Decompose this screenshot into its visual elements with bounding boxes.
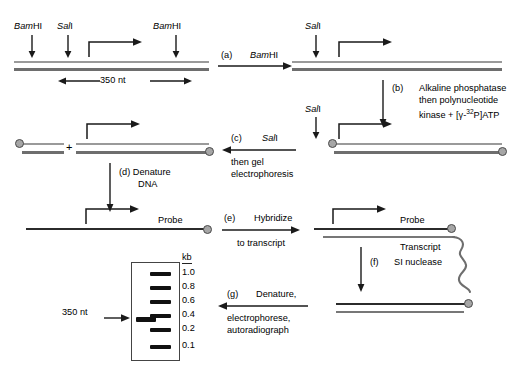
p32-label-circle-trimmed — [464, 299, 473, 308]
gel-marker-band — [150, 345, 171, 349]
restriction-site-label-bamhi-left: BamHI — [14, 21, 42, 32]
step-a-tag: (a) — [221, 50, 232, 62]
gel-marker-label: 0.6 — [182, 295, 195, 305]
figure-canvas: BamHI SalI BamHI 350 nt (a) BamHI SalI — [0, 0, 518, 375]
step-g-line2: electrophorese, — [227, 313, 290, 325]
gel-marker-band — [150, 272, 171, 276]
p32-label-circle-row2-right — [498, 147, 507, 156]
transcript-strand-row5 — [323, 236, 455, 238]
step-b-line2: then polynucleotide — [419, 95, 498, 107]
probe-label-row4: Probe — [158, 215, 183, 226]
transcription-start-arrow-row2 — [336, 119, 398, 141]
cut-site-arrow-sali-row2 — [308, 117, 324, 140]
gel-marker-band — [150, 286, 171, 290]
transcription-start-arrow-hybrid — [330, 204, 392, 226]
dna-strand-top-largefragment — [76, 143, 209, 145]
step-f-tag: (f) — [370, 257, 379, 269]
step-d-label: (d) Denature — [119, 167, 171, 179]
restriction-site-label-bamhi-right: BamHI — [153, 21, 181, 32]
step-f-arrow — [356, 247, 366, 293]
transcription-start-arrow-row1 — [86, 37, 148, 59]
trimmed-probe-strand — [336, 303, 468, 305]
probe-strand-row4 — [26, 228, 206, 230]
dna-strand-bottom-row1right — [292, 68, 502, 71]
restriction-site-label-sali-row2: SalI — [305, 104, 321, 115]
step-g-tag: (g) — [227, 289, 238, 301]
dna-strand-top-smallfragment — [22, 143, 64, 145]
dna-strand-bottom-row1 — [14, 68, 209, 71]
probe-label-row5: Probe — [400, 215, 425, 226]
gel-kb-header: kb — [182, 252, 192, 264]
gel-marker-band — [150, 328, 171, 332]
step-g-line1: Denature, — [256, 289, 296, 301]
cut-site-arrow-bamhi-right — [168, 35, 184, 59]
cut-site-arrow-bamhi-left — [24, 35, 40, 59]
dna-strand-bottom-smallfragment — [22, 151, 64, 154]
step-e-tag: (e) — [224, 213, 235, 225]
transcript-squiggle-tail — [452, 230, 498, 296]
step-f-line1: SI nuclease — [394, 257, 442, 269]
step-b-line3: kinase + [γ-32P]ATP — [419, 106, 499, 122]
cut-site-arrow-sali-top — [60, 35, 76, 59]
dna-strand-bottom-row2 — [334, 151, 502, 154]
restriction-site-label-sali-top: SalI — [57, 21, 73, 32]
gel-sample-band — [136, 317, 156, 322]
plus-sign: + — [66, 142, 72, 153]
gel-marker-label: 0.4 — [182, 309, 195, 319]
p32-label-circle-probe-row4 — [203, 225, 212, 234]
dna-strand-bottom-largefragment — [76, 151, 209, 154]
step-e-line1: Hybridize — [254, 213, 292, 225]
probe-strand-row5 — [314, 228, 450, 230]
gel-marker-label: 0.1 — [182, 340, 195, 350]
p32-label-circle-largefragment — [205, 147, 214, 156]
dna-strand-top-row1right — [292, 61, 502, 63]
cut-site-arrow-sali-row1right — [308, 35, 324, 59]
step-c-line2: then gel — [231, 157, 264, 169]
gel-sample-label: 350 nt — [62, 307, 88, 318]
step-b-line1: Alkaline phosphatase — [419, 83, 506, 95]
step-g-line3: autoradiograph — [227, 325, 289, 337]
transcription-start-arrow-probe — [83, 204, 145, 226]
gel-marker-label: 1.0 — [182, 267, 195, 277]
p32-label-circle-smallfragment — [15, 139, 24, 148]
dna-strand-top-row1 — [14, 61, 209, 63]
step-c-enzyme: SalI — [262, 133, 278, 145]
step-e-line2: to transcript — [237, 238, 285, 250]
gel-sample-pointer-arrow — [104, 312, 130, 324]
step-c-line3: electrophoresis — [231, 169, 293, 181]
gel-marker-label: 0.8 — [182, 281, 195, 291]
restriction-site-label-sali-row1right: SalI — [305, 21, 321, 32]
step-e-arrow — [222, 226, 300, 236]
step-a-label: BamHI — [250, 50, 278, 62]
transcription-start-arrow-row1right — [336, 37, 398, 59]
step-g-arrow — [218, 302, 308, 312]
transcript-label-row5: Transcript — [400, 242, 441, 253]
step-c-tag: (c) — [231, 133, 242, 145]
trimmed-transcript-strand — [336, 311, 464, 313]
step-d-line2: DNA — [138, 179, 157, 191]
transcription-start-arrow-row2left — [84, 119, 146, 141]
dna-strand-top-row2 — [334, 143, 502, 145]
step-a-arrow — [218, 62, 292, 72]
gel-marker-label: 0.2 — [182, 323, 195, 333]
step-b-tag: (b) — [392, 83, 403, 95]
length-label-350nt: 350 nt — [100, 75, 126, 86]
step-c-arrow — [222, 146, 296, 156]
p32-label-circle-row2-left — [328, 139, 337, 148]
gel-marker-band — [150, 300, 171, 304]
